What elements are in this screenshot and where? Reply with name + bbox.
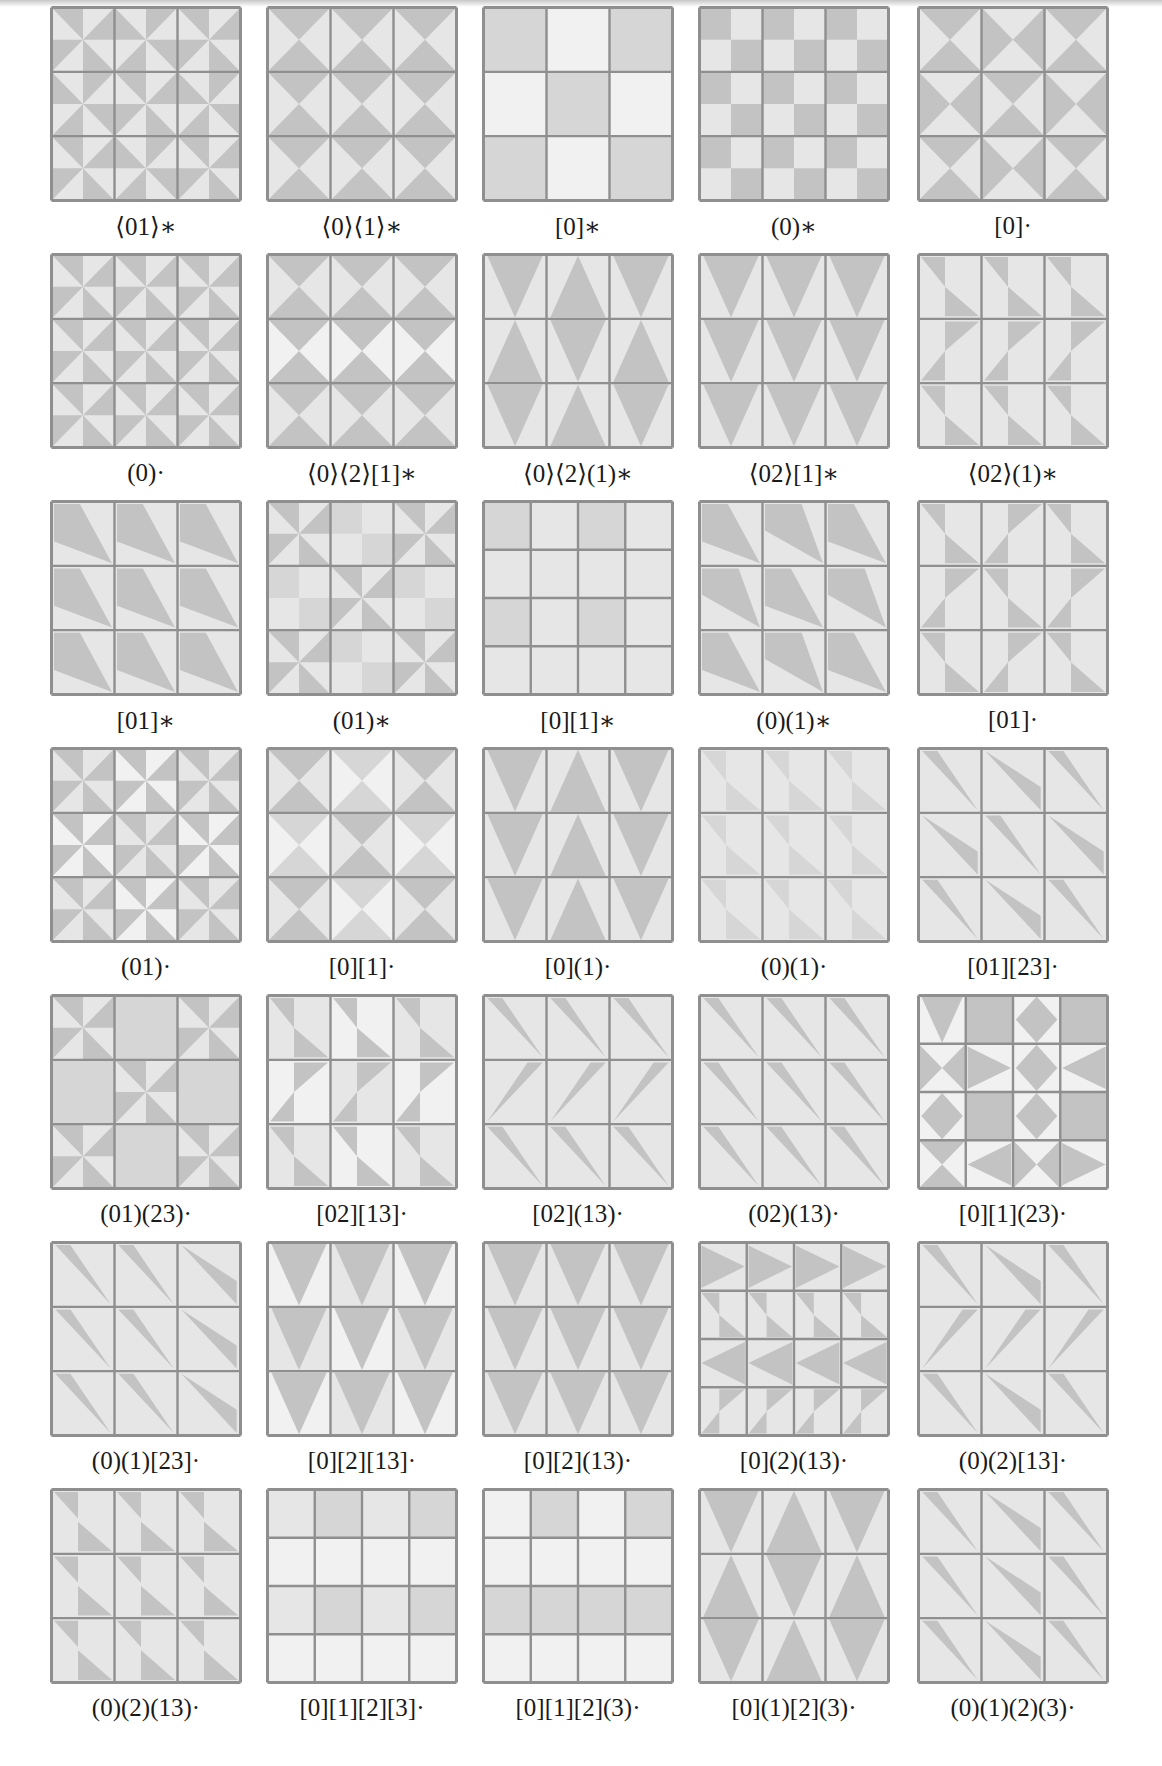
panel-label: ⟨0⟩⟨1⟩∗ <box>266 212 458 241</box>
panel-label: [01]· <box>917 706 1109 734</box>
tile-shape <box>299 598 331 630</box>
panel-label: [02](13)· <box>482 1200 674 1228</box>
tiling-grid <box>698 1241 890 1437</box>
tile-cell <box>625 1490 672 1538</box>
tiling-grid <box>698 994 890 1190</box>
tile-cell <box>531 646 578 694</box>
tile-cell <box>115 1124 178 1188</box>
tile-cell <box>547 72 610 136</box>
tiling-grid <box>482 253 674 449</box>
panel-label: (0)(1)(2)(3)· <box>917 1694 1109 1722</box>
tile-shape <box>826 72 858 104</box>
tiling-grid <box>482 6 674 202</box>
tile-shape <box>763 8 795 40</box>
tiling-grid <box>698 500 890 696</box>
panel-label: [02][13]· <box>266 1200 458 1228</box>
tile-cell <box>578 1634 625 1682</box>
tile-shape <box>857 168 889 200</box>
panel-label: ⟨0⟩⟨2⟩(1)∗ <box>482 459 674 488</box>
tile-cell <box>484 598 531 646</box>
tiling-panel: (0)(2)(13)· <box>50 1488 242 1684</box>
tile-cell <box>52 1060 115 1124</box>
tiling-panel: [0][1](23)· <box>917 994 1109 1190</box>
tiling-panel: (0)(1)(2)(3)· <box>917 1488 1109 1684</box>
tiling-panel: [02][13]· <box>266 994 458 1190</box>
tiling-panel: (0)(1)[23]· <box>50 1241 242 1437</box>
tiling-panel: ⟨0⟩⟨2⟩(1)∗ <box>482 253 674 449</box>
tiling-grid <box>50 500 242 696</box>
panel-label: [0][2][13]· <box>266 1447 458 1475</box>
panel-label: [0][1][2](3)· <box>482 1694 674 1722</box>
tiling-panel: (01)∗ <box>266 500 458 696</box>
tiling-grid <box>698 6 890 202</box>
tiling-grid <box>266 253 458 449</box>
tile-shape <box>268 566 300 598</box>
tiling-grid <box>266 747 458 943</box>
panel-label: (0)(1)∗ <box>698 706 890 735</box>
panel-label: [0][1][2][3]· <box>266 1694 458 1722</box>
tiling-grid <box>482 500 674 696</box>
tile-cell <box>268 1538 315 1586</box>
panel-label: [0][1]∗ <box>482 706 674 735</box>
tiling-grid <box>698 253 890 449</box>
tile-cell <box>409 1634 456 1682</box>
tile-shape <box>362 662 394 694</box>
tile-cell <box>115 996 178 1060</box>
panel-label: [0]· <box>917 212 1109 240</box>
tiling-panel: ⟨02⟩(1)∗ <box>917 253 1109 449</box>
panel-label: (0)(2)[13]· <box>917 1447 1109 1475</box>
tiling-grid <box>482 747 674 943</box>
tiling-grid <box>266 500 458 696</box>
tiling-panel: ⟨02⟩[1]∗ <box>698 253 890 449</box>
tile-shape <box>857 40 889 72</box>
tile-cell <box>268 1490 315 1538</box>
tile-cell <box>625 1586 672 1634</box>
tile-shape <box>826 8 858 40</box>
tile-cell <box>966 1092 1013 1140</box>
tiling-panel: [0][1][2](3)· <box>482 1488 674 1684</box>
tile-cell <box>610 136 673 200</box>
tiling-grid <box>266 1488 458 1684</box>
tile-cell <box>1060 1092 1107 1140</box>
panel-label: (0)(1)[23]· <box>50 1447 242 1475</box>
tile-cell <box>578 502 625 550</box>
tile-cell <box>625 646 672 694</box>
tiling-panel: ⟨0⟩⟨2⟩[1]∗ <box>266 253 458 449</box>
tiling-grid <box>266 1241 458 1437</box>
tiling-grid <box>698 1488 890 1684</box>
tile-cell <box>409 1490 456 1538</box>
panel-label: [0](2)(13)· <box>698 1447 890 1475</box>
tiling-grid <box>50 994 242 1190</box>
tiling-grid <box>917 1488 1109 1684</box>
tiling-grid <box>917 994 1109 1190</box>
tiling-panel: [0][1]∗ <box>482 500 674 696</box>
tile-cell <box>610 72 673 136</box>
tiling-grid <box>50 253 242 449</box>
tile-cell <box>409 1586 456 1634</box>
tiling-panel: (0)(1)· <box>698 747 890 943</box>
panel-label: [0][2](13)· <box>482 1447 674 1475</box>
tiling-panel: [0][2][13]· <box>266 1241 458 1437</box>
tile-cell <box>484 1538 531 1586</box>
panel-label: ⟨01⟩∗ <box>50 212 242 241</box>
tiling-panel: [01]∗ <box>50 500 242 696</box>
tile-shape <box>794 104 826 136</box>
tiling-grid <box>917 253 1109 449</box>
tile-cell <box>315 1586 362 1634</box>
tile-cell <box>484 550 531 598</box>
tile-cell <box>362 1490 409 1538</box>
tile-cell <box>531 1538 578 1586</box>
panel-label: [0]∗ <box>482 212 674 241</box>
tile-cell <box>484 8 547 72</box>
tile-shape <box>425 598 457 630</box>
tile-shape <box>731 104 763 136</box>
panel-label: [01][23]· <box>917 953 1109 981</box>
tile-cell <box>362 1586 409 1634</box>
tiling-grid <box>917 747 1109 943</box>
tiling-panel: (0)(2)[13]· <box>917 1241 1109 1437</box>
tile-cell <box>315 1538 362 1586</box>
tile-cell <box>484 136 547 200</box>
tile-cell <box>531 550 578 598</box>
panel-label: (0)∗ <box>698 212 890 241</box>
tiling-grid <box>917 6 1109 202</box>
